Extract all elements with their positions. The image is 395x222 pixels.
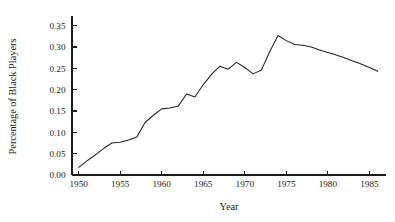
y-axis-tick-labels: 0.000.050.100.150.200.250.300.35 (49, 21, 65, 180)
x-axis-ticks (79, 171, 370, 176)
y-tick-label: 0.00 (49, 170, 65, 180)
line-chart: 0.000.050.100.150.200.250.300.35 1950195… (0, 0, 395, 222)
y-tick-label: 0.15 (49, 106, 65, 116)
y-tick-label: 0.10 (49, 128, 65, 138)
x-tick-label: 1970 (236, 179, 255, 189)
y-tick-label: 0.05 (49, 149, 65, 159)
x-tick-label: 1965 (194, 179, 213, 189)
x-tick-label: 1975 (277, 179, 296, 189)
x-tick-label: 1985 (360, 179, 379, 189)
chart-figure: 0.000.050.100.150.200.250.300.35 1950195… (0, 0, 395, 222)
y-tick-label: 0.35 (49, 21, 65, 31)
y-tick-label: 0.30 (49, 42, 65, 52)
y-tick-label: 0.20 (49, 85, 65, 95)
x-axis-tick-labels: 19501955196019651970197519801985 (69, 179, 379, 189)
x-tick-label: 1950 (69, 179, 88, 189)
x-axis-title: Year (220, 201, 240, 212)
percentage-black-players-series (79, 35, 378, 167)
x-tick-label: 1980 (319, 179, 338, 189)
y-tick-label: 0.25 (49, 64, 65, 74)
y-axis-title: Percentage of Black Players (7, 39, 18, 155)
y-axis-ticks (72, 26, 77, 175)
x-tick-label: 1955 (111, 179, 130, 189)
x-tick-label: 1960 (153, 179, 172, 189)
